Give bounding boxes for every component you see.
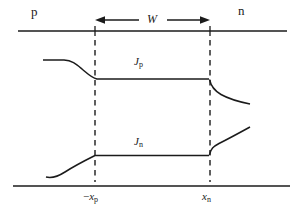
n-region-label: n — [238, 4, 245, 17]
n-region-text: n — [238, 3, 245, 18]
depletion-width-label: W — [147, 13, 157, 25]
xn-subscript: n — [207, 195, 211, 204]
width-arrow-left-head-icon — [95, 16, 105, 24]
width-arrow-right-head-icon — [200, 16, 210, 24]
jn-subscript: n — [139, 140, 143, 149]
jp-curve-right-tail — [210, 80, 251, 105]
xp-subscript: p — [94, 195, 98, 204]
width-symbol: W — [147, 12, 157, 26]
p-region-label: p — [31, 5, 38, 18]
left-boundary-label: −xp — [83, 191, 98, 202]
jn-curve — [46, 156, 209, 178]
pn-junction-current-density-diagram: p n W Jp Jn −xp xn — [0, 0, 305, 216]
jp-curve — [43, 60, 209, 79]
jp-curve-label: Jp — [134, 56, 143, 67]
jp-subscript: p — [139, 60, 143, 69]
jn-curve-right-tail — [210, 127, 251, 155]
jn-curve-label: Jn — [134, 136, 143, 147]
diagram-canvas — [0, 0, 305, 216]
p-region-text: p — [31, 4, 38, 19]
right-boundary-label: xn — [202, 191, 211, 202]
